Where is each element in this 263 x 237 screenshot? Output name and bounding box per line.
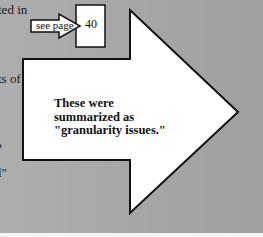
- callout-text: These were summarized as "granularity is…: [54, 97, 204, 138]
- see-page-label: see page: [36, 19, 74, 31]
- callout-line-3: "granularity issues.": [54, 124, 204, 138]
- page-number: 40: [80, 17, 102, 32]
- callout-line-2: summarized as: [54, 111, 204, 125]
- callout-line-1: These were: [54, 97, 204, 111]
